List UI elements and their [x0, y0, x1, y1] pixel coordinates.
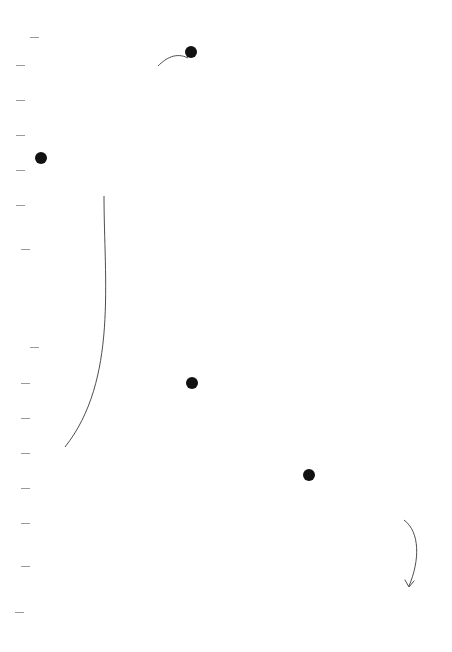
- leader-line-1: [65, 196, 106, 447]
- bottom-ytick-0.6: [21, 453, 39, 454]
- bottom-ytick-0.4: [21, 488, 39, 489]
- leader-arrow-4: [405, 580, 414, 587]
- bottom-ytick-neg0.2: [15, 612, 39, 613]
- top-chart-svg: [0, 0, 452, 652]
- bottom-ytick-0.8: [21, 418, 39, 419]
- leader-line-2: [158, 56, 188, 66]
- bottom-ytick-0.0: [21, 566, 39, 567]
- bottom-ytick-1.0: [21, 383, 39, 384]
- annotation-bullet-3: [186, 377, 198, 389]
- annotation-bullet-1: [35, 152, 47, 164]
- bottom-ytick-0.2: [21, 523, 39, 524]
- infographic-root: [0, 0, 452, 652]
- annotation-bullet-2: [185, 46, 197, 58]
- annotation-bullet-4: [303, 469, 315, 481]
- leader-line-4: [404, 520, 417, 586]
- bottom-ytick-1.2: [30, 347, 52, 348]
